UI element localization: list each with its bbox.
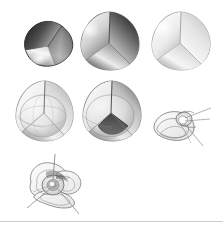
collapsed-surface-lobes (154, 111, 196, 140)
bottom-rule (0, 221, 223, 222)
surface-render-lens-opaque-dark (10, 8, 84, 80)
figure-canvas (0, 0, 223, 229)
tetrahedron-body (152, 12, 210, 70)
lens-body (17, 13, 80, 75)
surface-render-translucent-inner-cone (80, 79, 144, 143)
surface-render-collapsed-wireframe-tilted (151, 106, 213, 148)
surface-render-rounded-tetrahedron-light (150, 10, 213, 72)
surface-render-rounded-tetrahedron-shaded (78, 10, 142, 72)
inner-sphere-surface (20, 95, 66, 137)
tetrahedron-body (81, 12, 139, 70)
surface-render-collapsed-wireframe-pinwheel (22, 152, 92, 218)
surface-render-translucent-inner-sphere (14, 79, 76, 143)
